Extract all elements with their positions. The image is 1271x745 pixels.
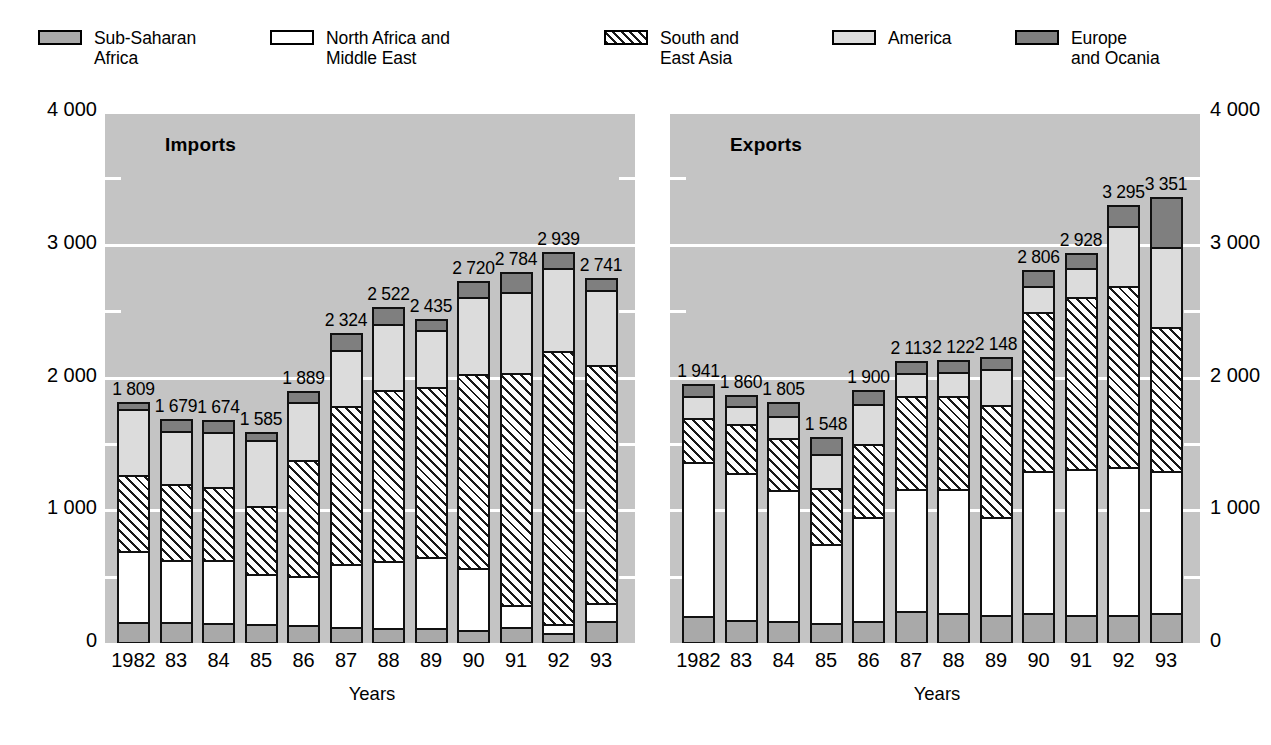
segment-america (374, 326, 403, 392)
bar-total-label: 1 805 (755, 379, 812, 400)
bar-total-label: 2 784 (488, 249, 545, 270)
segment-south-and-east-asia (544, 353, 573, 626)
y-axis-label-0-right: 0 (1210, 629, 1271, 652)
segment-south-and-east-asia (417, 389, 446, 559)
segment-america (119, 411, 148, 477)
segment-south-and-east-asia (1067, 299, 1096, 472)
segment-america (727, 408, 756, 427)
legend-item-label: Sub-Saharan Africa (94, 28, 196, 68)
segment-europe-and-ocania (162, 421, 191, 432)
segment-europe-and-ocania (982, 359, 1011, 371)
y-axis-label-0-left: 0 (25, 629, 97, 652)
bar-imports-87 (330, 333, 363, 643)
segment-north-africa-and-middle-east (897, 491, 926, 613)
bar-imports-85 (245, 432, 278, 643)
segment-america (939, 374, 968, 398)
minor-tick-2500-right (619, 310, 635, 313)
y-axis-label-2000-right: 2 000 (1210, 364, 1271, 387)
bar-exports-88 (937, 360, 970, 643)
y-axis-label-2000-left: 2 000 (25, 364, 97, 387)
segment-europe-and-ocania (247, 434, 276, 443)
bar-total-label: 2 741 (573, 255, 630, 276)
bar-exports-86 (852, 390, 885, 643)
segment-north-africa-and-middle-east (1109, 469, 1138, 616)
segment-sub-saharan-africa (587, 623, 616, 643)
segment-south-and-east-asia (587, 367, 616, 605)
segment-america (1109, 228, 1138, 288)
segment-sub-saharan-africa (854, 623, 883, 643)
segment-america (459, 299, 488, 376)
segment-sub-saharan-africa (1024, 615, 1053, 643)
segment-sub-saharan-africa (544, 635, 573, 643)
bar-total-label: 2 148 (968, 334, 1025, 355)
bar-total-label: 1 585 (233, 409, 290, 430)
imports-chart-panel: Imports1 8091 6791 6741 5851 8892 3242 5… (105, 112, 635, 745)
segment-south-and-east-asia (162, 486, 191, 562)
major-tick-mark-1000-right (1184, 509, 1200, 512)
major-tick-mark-1000-right (619, 509, 635, 512)
legend-item-america: America (832, 28, 951, 48)
segment-europe-and-ocania (502, 274, 531, 294)
segment-america (854, 406, 883, 446)
x-axis-title: Years (837, 683, 1037, 705)
major-tick-mark-3000-right (619, 244, 635, 247)
bar-exports-87 (895, 361, 928, 643)
exports-chart-panel: Exports1 9411 8601 8051 5481 9002 1132 1… (670, 112, 1200, 745)
segment-south-and-east-asia (119, 477, 148, 553)
bar-total-label: 2 939 (530, 229, 587, 250)
legend-item-europe-and-ocania: Europe and Ocania (1015, 28, 1160, 68)
bar-exports-92 (1107, 205, 1140, 643)
segment-sub-saharan-africa (769, 623, 798, 643)
segment-europe-and-ocania (939, 362, 968, 374)
imports-title: Imports (165, 134, 236, 156)
segment-sub-saharan-africa (1109, 617, 1138, 643)
minor-tick-2500-right (1184, 310, 1200, 313)
bar-imports-84 (202, 420, 235, 643)
bar-exports-91 (1065, 253, 1098, 643)
segment-europe-and-ocania (727, 397, 756, 408)
segment-europe-and-ocania (544, 254, 573, 270)
segment-sub-saharan-africa (727, 622, 756, 643)
segment-europe-and-ocania (1152, 199, 1181, 249)
bar-total-label: 1 889 (275, 368, 332, 389)
segment-north-africa-and-middle-east (332, 566, 361, 630)
x-axis-label-93: 93 (574, 649, 629, 672)
major-tick-mark-3000-left (105, 244, 121, 247)
segment-north-africa-and-middle-east (939, 491, 968, 616)
segment-south-and-east-asia (247, 508, 276, 576)
segment-north-africa-and-middle-east (502, 607, 531, 629)
bar-imports-86 (287, 391, 320, 643)
segment-europe-and-ocania (417, 321, 446, 333)
segment-europe-and-ocania (1024, 272, 1053, 288)
legend-item-label: South and East Asia (660, 28, 739, 68)
exports-plot-area: Exports1 9411 8601 8051 5481 9002 1132 1… (670, 112, 1200, 643)
gridline-4000 (105, 112, 635, 114)
segment-north-africa-and-middle-east (1024, 473, 1053, 615)
segment-sub-saharan-africa (982, 617, 1011, 643)
bar-total-label: 3 351 (1138, 174, 1195, 195)
legend-item-south-and-east-asia: South and East Asia (604, 28, 739, 68)
x-axis-title: Years (272, 683, 472, 705)
bar-imports-93 (585, 278, 618, 643)
segment-north-africa-and-middle-east (459, 570, 488, 632)
y-axis-label-4000-left: 4 000 (25, 98, 97, 121)
y-axis-label-1000-right: 1 000 (1210, 496, 1271, 519)
segment-north-africa-and-middle-east (204, 562, 233, 624)
bar-imports-90 (457, 281, 490, 643)
y-axis-label-3000-right: 3 000 (1210, 231, 1271, 254)
segment-north-africa-and-middle-east (812, 546, 841, 626)
segment-south-and-east-asia (289, 462, 318, 577)
segment-europe-and-ocania (684, 386, 713, 397)
chart-legend: Sub-Saharan AfricaNorth Africa and Middl… (0, 28, 1271, 88)
segment-north-africa-and-middle-east (162, 562, 191, 624)
segment-north-africa-and-middle-east (769, 492, 798, 623)
segment-north-africa-and-middle-east (854, 519, 883, 624)
segment-europe-and-ocania (587, 280, 616, 292)
segment-sub-saharan-africa (162, 624, 191, 643)
segment-america (204, 434, 233, 490)
segment-america (1152, 249, 1181, 329)
segment-europe-and-ocania (119, 404, 148, 412)
minor-tick-1500-right (619, 443, 635, 446)
minor-tick-1500-right (1184, 443, 1200, 446)
segment-europe-and-ocania (204, 422, 233, 434)
